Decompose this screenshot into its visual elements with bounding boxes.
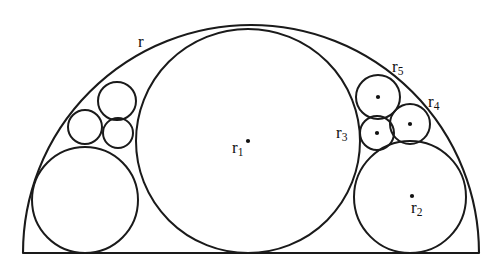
circle-left-upper: [98, 82, 136, 120]
circle-left-lower: [103, 118, 133, 148]
label-r2-subscript: 2: [417, 206, 423, 218]
label-r1-subscript: 1: [238, 146, 244, 158]
label-r3-text: r: [336, 123, 342, 142]
label-r2: r2: [411, 199, 422, 216]
outer-semicircle-arc: [23, 25, 479, 253]
label-r1-text: r: [232, 138, 238, 157]
circle-bottom-left: [32, 147, 138, 253]
label-r: r: [138, 33, 144, 50]
label-r4-text: r: [428, 92, 434, 111]
label-r-text: r: [138, 32, 144, 51]
label-r1: r1: [232, 139, 243, 156]
circle-r4-center-dot: [408, 122, 412, 126]
circle-r3-center-dot: [375, 131, 379, 135]
label-r2-text: r: [411, 198, 417, 217]
label-r5-subscript: 5: [398, 65, 404, 77]
figure-canvas: [0, 0, 498, 273]
label-r5-text: r: [392, 57, 398, 76]
circle-left-middle: [68, 110, 102, 144]
label-r3: r3: [336, 124, 347, 141]
label-r5: r5: [392, 58, 403, 75]
label-r3-subscript: 3: [342, 131, 348, 143]
label-r4-subscript: 4: [434, 100, 440, 112]
circle-r5-center-dot: [376, 95, 380, 99]
label-r4: r4: [428, 93, 439, 110]
geometry-figure: rr1r2r3r4r5: [0, 0, 498, 273]
circle-r2: [354, 141, 466, 253]
circle-r1-center-dot: [246, 139, 250, 143]
